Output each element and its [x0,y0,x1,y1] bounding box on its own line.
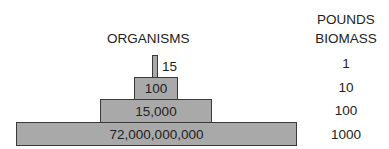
biomass-header-line2: BIOMASS [306,32,386,46]
biomass-value-3: 100 [306,104,386,118]
pyramid-level-2-box: 100 [134,77,178,100]
pyramid-level-4-box: 72,000,000,000 [16,122,297,146]
organisms-header: ORGANISMS [107,32,190,46]
biomass-value-4: 1000 [306,128,386,142]
biomass-value-1: 1 [306,57,386,71]
pyramid-level-1-label: 15 [162,60,177,74]
biomass-value-2: 10 [306,81,386,95]
pyramid-level-3-box: 15,000 [100,99,212,123]
biomass-header-line1: POUNDS [306,13,386,27]
pyramid-level-1-bar [152,55,158,78]
